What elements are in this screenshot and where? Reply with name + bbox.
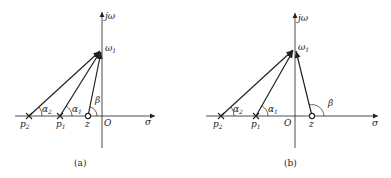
svg-text:jω: jω	[296, 13, 309, 23]
panel-a: jω ω1 σ O p2 p1 z α2 α1 β (a)	[15, 11, 155, 168]
real-axis-label: σ	[372, 118, 379, 128]
svg-text:α1: α1	[72, 104, 82, 115]
zero-label: z	[308, 119, 314, 129]
svg-text:p1: p1	[56, 119, 66, 130]
panel-b: jω ω1 σ O p2 p1 z α2 α1 β (b)	[206, 13, 379, 168]
imag-axis-label: jω	[296, 13, 309, 23]
origin-label: O	[284, 118, 292, 128]
vector-z	[296, 51, 312, 116]
zero-z-icon	[309, 113, 314, 118]
zero-z-icon	[85, 113, 90, 118]
svg-text:ω1: ω1	[105, 43, 116, 54]
svg-text:p1: p1	[251, 119, 261, 130]
origin-label: O	[104, 118, 112, 128]
angle-arc-beta	[90, 107, 97, 116]
vector-p2	[29, 51, 100, 116]
svg-text:α1: α1	[268, 104, 278, 115]
pole-zero-diagram: jω ω1 σ O p2 p1 z α2 α1 β (a) jω ω1 σ O …	[0, 0, 391, 178]
angle-beta-label: β	[327, 98, 333, 108]
vector-p2	[221, 50, 293, 116]
imag-axis-label: jω	[103, 11, 116, 21]
zero-label: z	[84, 119, 90, 129]
svg-text:p2: p2	[213, 119, 223, 130]
svg-text:ω1: ω1	[298, 42, 309, 53]
svg-text:α2: α2	[233, 104, 243, 115]
angle-beta-label: β	[94, 95, 100, 105]
caption-b: (b)	[284, 158, 297, 168]
caption-a: (a)	[74, 158, 86, 168]
svg-text:α2: α2	[42, 104, 52, 115]
vector-p1	[256, 51, 293, 116]
real-axis-label: σ	[145, 117, 152, 127]
svg-text:jω: jω	[103, 11, 116, 21]
svg-text:p2: p2	[20, 119, 30, 130]
